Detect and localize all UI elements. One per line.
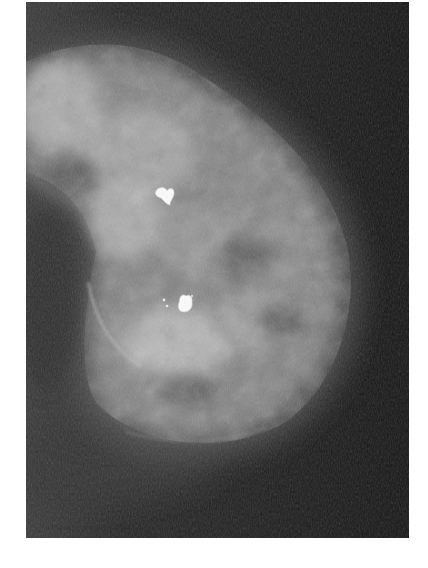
mammogram-image bbox=[26, 2, 409, 538]
mammogram-canvas bbox=[26, 2, 409, 538]
film-grain bbox=[26, 2, 409, 538]
